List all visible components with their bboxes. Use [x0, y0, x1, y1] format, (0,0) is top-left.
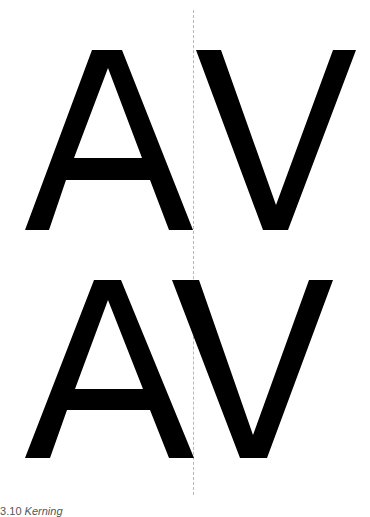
glyph-a-kerned	[25, 280, 194, 458]
glyph-v-kerned	[172, 280, 333, 458]
caption-text: Kerning	[25, 505, 63, 517]
row-unkerned	[25, 50, 356, 230]
caption-number: 03.10	[0, 505, 22, 517]
figure-caption: 03.10 Kerning	[0, 505, 63, 517]
glyph-v-unkerned	[196, 50, 356, 230]
row-kerned	[25, 280, 333, 458]
glyph-a-unkerned	[25, 50, 193, 230]
